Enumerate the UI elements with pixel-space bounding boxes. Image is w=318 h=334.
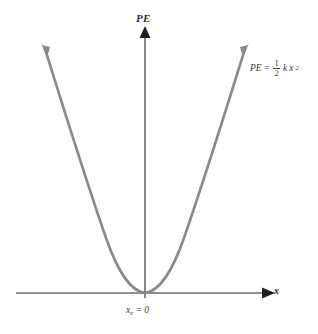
x-axis-label: x xyxy=(274,286,279,296)
potential-energy-diagram: PE x xe = 0 PE=12kx2 xyxy=(0,0,318,334)
y-axis-arrowhead xyxy=(140,26,151,38)
fraction-denominator: 2 xyxy=(273,69,279,78)
equation-coefficient: k xyxy=(283,64,287,74)
curve-right-arrowhead xyxy=(240,38,251,58)
equilibrium-value: 0 xyxy=(144,305,149,315)
equilibrium-equals: = xyxy=(135,305,141,315)
y-axis-label: PE xyxy=(136,13,150,24)
diagram-canvas xyxy=(0,0,318,334)
fraction-numerator: 1 xyxy=(273,59,279,68)
equation-variable: x xyxy=(289,64,293,74)
equation-lhs: PE xyxy=(250,64,262,74)
equilibrium-subscript: e xyxy=(130,309,133,316)
equation-exponent: 2 xyxy=(295,65,298,72)
equilibrium-position-label: xe = 0 xyxy=(126,306,149,316)
potential-energy-equation: PE=12kx2 xyxy=(250,59,299,78)
curve-left-arrowhead xyxy=(39,38,50,58)
equation-equals: = xyxy=(264,64,270,74)
one-half-fraction: 12 xyxy=(273,59,280,78)
